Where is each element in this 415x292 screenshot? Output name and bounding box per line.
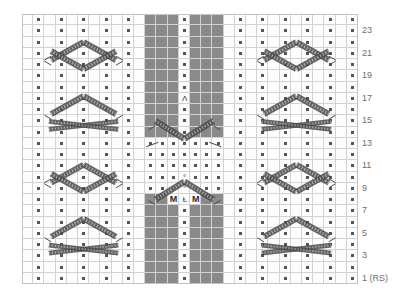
chart-cell[interactable] — [134, 183, 145, 194]
chart-cell[interactable] — [201, 115, 212, 126]
chart-cell[interactable] — [112, 194, 123, 205]
chart-cell[interactable] — [212, 25, 223, 36]
chart-cell[interactable] — [145, 217, 156, 228]
chart-cell[interactable] — [145, 104, 156, 115]
chart-cell[interactable] — [44, 104, 55, 115]
chart-cell[interactable] — [336, 250, 347, 261]
chart-cell[interactable] — [44, 172, 55, 183]
chart-cell[interactable] — [336, 14, 347, 25]
chart-cell[interactable] — [190, 262, 201, 273]
chart-cell[interactable] — [224, 217, 235, 228]
chart-cell[interactable] — [336, 273, 347, 284]
chart-cell[interactable] — [268, 48, 279, 59]
chart-cell[interactable] — [313, 149, 324, 160]
chart-cell[interactable] — [67, 205, 78, 216]
chart-cell[interactable] — [44, 59, 55, 70]
chart-cell[interactable] — [112, 172, 123, 183]
chart-cell[interactable] — [313, 70, 324, 81]
chart-cell[interactable] — [246, 239, 257, 250]
chart-cell[interactable] — [336, 115, 347, 126]
chart-cell[interactable] — [313, 37, 324, 48]
chart-cell[interactable] — [134, 14, 145, 25]
chart-cell[interactable] — [246, 250, 257, 261]
chart-cell[interactable] — [22, 127, 33, 138]
chart-cell[interactable] — [268, 239, 279, 250]
chart-cell[interactable] — [89, 70, 100, 81]
chart-cell[interactable] — [44, 262, 55, 273]
chart-cell[interactable] — [190, 205, 201, 216]
chart-cell[interactable] — [145, 239, 156, 250]
chart-cell[interactable] — [268, 127, 279, 138]
chart-cell[interactable] — [291, 183, 302, 194]
chart-cell[interactable] — [212, 228, 223, 239]
chart-cell[interactable] — [89, 14, 100, 25]
chart-cell[interactable] — [190, 104, 201, 115]
chart-cell[interactable] — [201, 82, 212, 93]
chart-cell[interactable] — [190, 59, 201, 70]
double-decrease-down[interactable]: Ɫ — [179, 194, 190, 205]
chart-cell[interactable] — [212, 93, 223, 104]
chart-cell[interactable] — [212, 217, 223, 228]
chart-cell[interactable] — [22, 59, 33, 70]
chart-cell[interactable] — [22, 205, 33, 216]
chart-cell[interactable] — [112, 183, 123, 194]
chart-cell[interactable] — [212, 250, 223, 261]
chart-cell[interactable] — [336, 217, 347, 228]
chart-cell[interactable] — [268, 194, 279, 205]
chart-cell[interactable] — [22, 262, 33, 273]
chart-cell[interactable] — [246, 25, 257, 36]
chart-cell[interactable] — [22, 138, 33, 149]
chart-cell[interactable] — [246, 104, 257, 115]
chart-cell[interactable] — [212, 194, 223, 205]
chart-cell[interactable] — [134, 262, 145, 273]
chart-cell[interactable] — [224, 14, 235, 25]
chart-cell[interactable] — [291, 115, 302, 126]
chart-cell[interactable] — [313, 172, 324, 183]
chart-cell[interactable] — [134, 217, 145, 228]
chart-cell[interactable] — [212, 70, 223, 81]
chart-cell[interactable] — [246, 127, 257, 138]
chart-cell[interactable] — [22, 273, 33, 284]
chart-cell[interactable] — [313, 93, 324, 104]
chart-cell[interactable] — [67, 149, 78, 160]
chart-cell[interactable] — [201, 250, 212, 261]
chart-cell[interactable] — [22, 160, 33, 171]
chart-cell[interactable] — [291, 160, 302, 171]
chart-cell[interactable] — [112, 70, 123, 81]
chart-cell[interactable] — [190, 273, 201, 284]
chart-cell[interactable] — [201, 93, 212, 104]
chart-cell[interactable] — [89, 183, 100, 194]
chart-cell[interactable] — [156, 273, 167, 284]
chart-cell[interactable] — [67, 115, 78, 126]
chart-cell[interactable] — [168, 14, 179, 25]
chart-cell[interactable] — [224, 37, 235, 48]
chart-cell[interactable] — [201, 273, 212, 284]
chart-cell[interactable] — [134, 239, 145, 250]
chart-cell[interactable] — [168, 37, 179, 48]
chart-cell[interactable] — [291, 82, 302, 93]
chart-cell[interactable] — [291, 127, 302, 138]
chart-cell[interactable] — [313, 104, 324, 115]
chart-cell[interactable] — [246, 48, 257, 59]
chart-cell[interactable] — [246, 172, 257, 183]
chart-cell[interactable] — [168, 70, 179, 81]
chart-cell[interactable] — [224, 82, 235, 93]
chart-grid[interactable]: Λ°°ⱢMM — [22, 14, 358, 284]
chart-cell[interactable] — [268, 59, 279, 70]
chart-cell[interactable] — [291, 25, 302, 36]
chart-cell[interactable] — [268, 250, 279, 261]
chart-cell[interactable] — [44, 228, 55, 239]
chart-cell[interactable] — [89, 25, 100, 36]
chart-cell[interactable] — [112, 160, 123, 171]
chart-cell[interactable] — [168, 250, 179, 261]
chart-cell[interactable] — [268, 183, 279, 194]
chart-cell[interactable] — [201, 37, 212, 48]
chart-cell[interactable] — [201, 217, 212, 228]
chart-cell[interactable] — [201, 25, 212, 36]
chart-cell[interactable] — [224, 239, 235, 250]
chart-cell[interactable] — [268, 93, 279, 104]
chart-cell[interactable] — [224, 205, 235, 216]
chart-cell[interactable] — [145, 228, 156, 239]
chart-cell[interactable] — [313, 160, 324, 171]
chart-cell[interactable] — [89, 149, 100, 160]
